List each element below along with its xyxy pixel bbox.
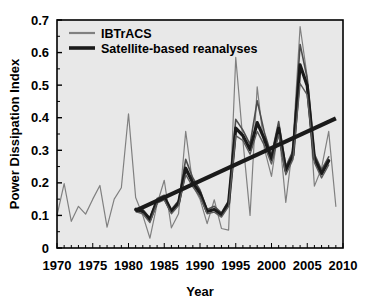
x-tick-label: 1985 bbox=[150, 258, 179, 273]
x-axis-title: Year bbox=[186, 284, 213, 299]
y-tick-label: 0.6 bbox=[31, 45, 49, 60]
x-tick-label: 2005 bbox=[293, 258, 322, 273]
legend-label-ibtracs: IBTrACS bbox=[101, 27, 152, 41]
y-tick-label: 0 bbox=[42, 241, 49, 256]
x-tick-label: 2000 bbox=[257, 258, 286, 273]
y-tick-label: 0.3 bbox=[31, 143, 49, 158]
x-tick-label: 1995 bbox=[221, 258, 250, 273]
y-tick-label: 0.5 bbox=[31, 78, 49, 93]
y-tick-label: 0.7 bbox=[31, 13, 49, 28]
x-tick-label: 1975 bbox=[78, 258, 107, 273]
power-dissipation-index-chart: 197019751980198519901995200020052010 00.… bbox=[0, 0, 365, 303]
y-tick-label: 0.1 bbox=[31, 208, 49, 223]
x-tick-label: 1990 bbox=[186, 258, 215, 273]
y-axis-title: Power Dissipation Index bbox=[7, 58, 22, 209]
x-tick-label: 1970 bbox=[43, 258, 72, 273]
x-tick-label: 1980 bbox=[114, 258, 143, 273]
y-tick-label: 0.2 bbox=[31, 175, 49, 190]
y-tick-label: 0.4 bbox=[31, 110, 50, 125]
chart-figure: 197019751980198519901995200020052010 00.… bbox=[0, 0, 365, 303]
x-tick-label: 2010 bbox=[329, 258, 358, 273]
legend-label-satellite-based-reanalyses: Satellite-based reanalyses bbox=[101, 42, 257, 56]
y-tick-labels: 00.10.20.30.40.50.60.7 bbox=[31, 13, 50, 256]
x-tick-labels: 197019751980198519901995200020052010 bbox=[43, 258, 358, 273]
